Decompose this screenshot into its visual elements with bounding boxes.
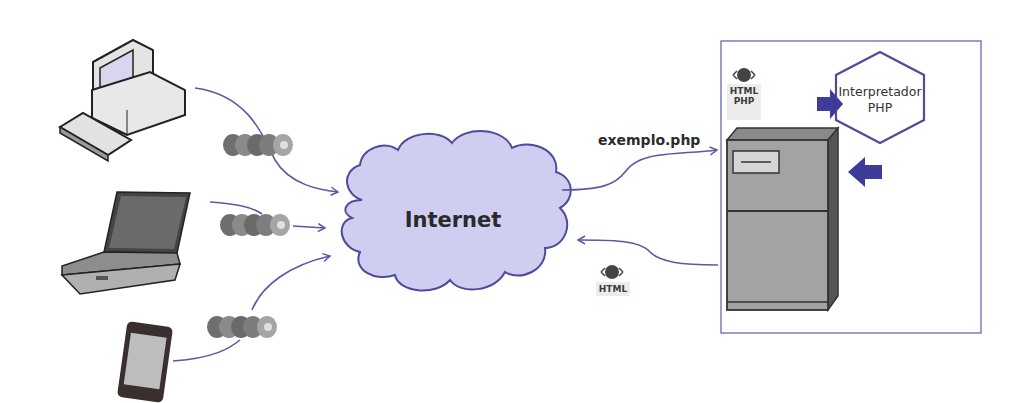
interpreter-label: Interpretador PHP bbox=[838, 84, 922, 116]
html-php-badge: HTML PHP bbox=[727, 84, 761, 120]
html-globe-icon bbox=[601, 265, 623, 279]
badge-php-text: PHP bbox=[727, 96, 761, 106]
browser-logos-icon bbox=[207, 316, 277, 338]
diagram-canvas bbox=[0, 0, 1036, 403]
desktop-computer-icon bbox=[60, 40, 185, 161]
phone-connector bbox=[173, 256, 330, 361]
internet-label: Internet bbox=[398, 208, 508, 232]
server-tower-icon bbox=[727, 128, 838, 310]
interpreter-line1: Interpretador bbox=[838, 84, 922, 100]
interpreter-line2: PHP bbox=[838, 100, 922, 116]
html-response-badge: HTML bbox=[596, 282, 630, 296]
browser-logos-icon bbox=[223, 134, 293, 156]
laptop-icon bbox=[62, 192, 190, 294]
arrow-from-interpreter-icon bbox=[848, 157, 882, 187]
badge-html-response-text: HTML bbox=[596, 282, 630, 294]
browser-logos-icon bbox=[220, 214, 290, 236]
request-file-label: exemplo.php bbox=[598, 132, 700, 148]
badge-html-text: HTML bbox=[727, 86, 761, 96]
response-connector bbox=[578, 240, 718, 265]
smartphone-icon bbox=[117, 321, 173, 403]
request-connector bbox=[562, 150, 717, 190]
html-php-globe-icon bbox=[733, 68, 755, 82]
